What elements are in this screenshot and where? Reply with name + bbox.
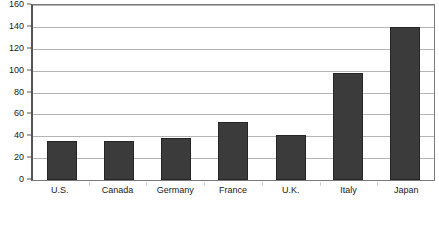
bar-chart: 020406080100120140160 U.S.CanadaGermanyF… <box>0 0 439 225</box>
plot-area <box>31 4 435 181</box>
x-axis-separator <box>204 182 205 186</box>
y-tick-label: 60 <box>14 109 24 118</box>
bars-layer <box>33 5 434 180</box>
y-axis: 020406080100120140160 <box>0 0 30 225</box>
y-tick-label: 80 <box>14 87 24 96</box>
y-tick-label: 40 <box>14 131 24 140</box>
y-tick-label: 120 <box>9 43 24 52</box>
x-tick-label: France <box>219 186 247 195</box>
x-axis-separator <box>89 182 90 186</box>
x-tick-label: Germany <box>157 186 194 195</box>
bar <box>276 135 306 180</box>
x-tick-label: U.K. <box>282 186 300 195</box>
bar-slot <box>90 5 147 180</box>
bar-slot <box>262 5 319 180</box>
x-tick-label: Japan <box>394 186 419 195</box>
x-tick-label: U.S. <box>51 186 69 195</box>
bar <box>161 138 191 180</box>
y-tick-label: 140 <box>9 21 24 30</box>
y-tick-label: 160 <box>9 0 24 9</box>
y-tick-label: 100 <box>9 65 24 74</box>
x-tick-label: Canada <box>102 186 134 195</box>
x-axis-separator <box>146 182 147 186</box>
bar <box>104 141 134 180</box>
bar <box>390 27 420 180</box>
bar-slot <box>377 5 434 180</box>
y-tick-label: 20 <box>14 153 24 162</box>
bar <box>47 141 77 180</box>
y-tick-label: 0 <box>19 175 24 184</box>
x-axis: U.S.CanadaGermanyFranceU.K.ItalyJapan <box>31 186 435 204</box>
bar <box>218 122 248 180</box>
bar <box>333 73 363 180</box>
bar-slot <box>148 5 205 180</box>
bar-slot <box>205 5 262 180</box>
x-axis-separator <box>377 182 378 186</box>
bar-slot <box>33 5 90 180</box>
x-axis-separator <box>320 182 321 186</box>
x-tick-label: Italy <box>340 186 357 195</box>
bar-slot <box>319 5 376 180</box>
x-axis-separator <box>262 182 263 186</box>
